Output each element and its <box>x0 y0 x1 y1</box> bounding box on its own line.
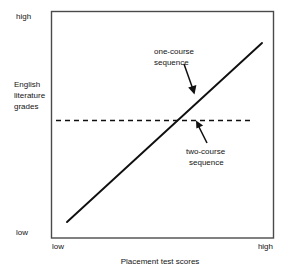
scatter-trend-figure: high low English literature grades low h… <box>0 0 287 276</box>
one-course-annotation-arrow-shaft <box>184 64 193 88</box>
two-course-annotation-line-1: two-course <box>186 147 226 156</box>
y-axis-title-line-1: English <box>14 80 40 89</box>
one-course-annotation-line-1: one-course <box>154 47 195 56</box>
plot-frame <box>52 12 274 239</box>
one-course-trend-line <box>67 43 262 222</box>
two-course-annotation-arrow-shaft <box>199 126 208 143</box>
y-axis-title-line-2: literature <box>14 91 46 100</box>
figure-page: high low English literature grades low h… <box>0 0 287 276</box>
y-axis-low-label: low <box>16 228 28 237</box>
one-course-annotation-arrow-head <box>188 85 196 94</box>
x-axis-title: Placement test scores <box>121 257 200 266</box>
one-course-annotation-line-2: sequence <box>154 58 189 67</box>
x-axis-high-label: high <box>258 242 273 251</box>
two-course-annotation-line-2: sequence <box>189 158 224 167</box>
x-axis-low-label: low <box>52 242 64 251</box>
y-axis-high-label: high <box>16 12 31 21</box>
y-axis-title-line-3: grades <box>14 102 38 111</box>
